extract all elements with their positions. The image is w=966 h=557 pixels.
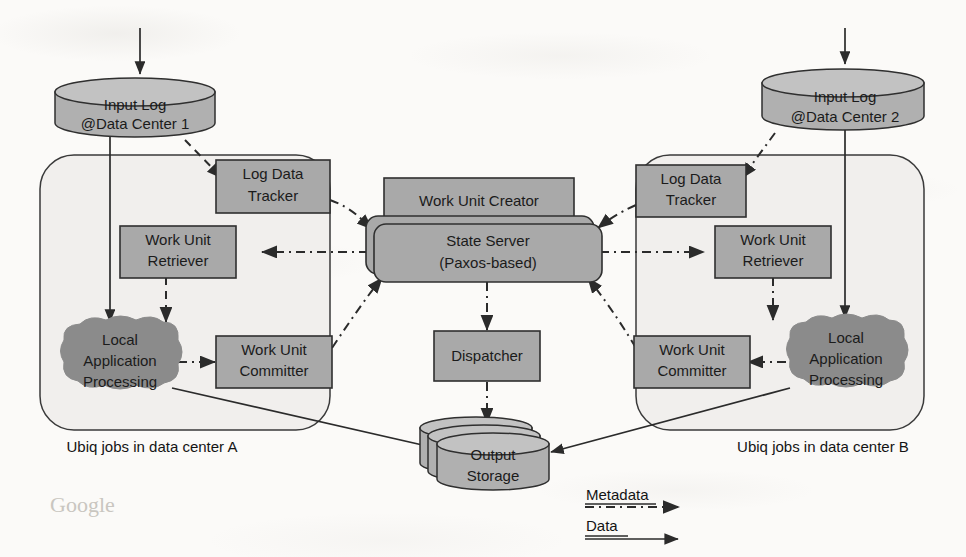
- state-server-label-line2: (Paxos-based): [439, 254, 537, 271]
- legend-metadata-label: Metadata: [586, 486, 649, 503]
- output-storage-label-line1: Output: [470, 446, 516, 463]
- node-work-unit-retriever-b[interactable]: Work Unit Retriever: [715, 226, 831, 278]
- figure-canvas: Input Log @Data Center 1 Input Log @Data…: [0, 0, 966, 557]
- node-work-unit-retriever-a[interactable]: Work Unit Retriever: [120, 226, 236, 278]
- work-unit-retriever-a-label-line2: Retriever: [148, 252, 209, 269]
- work-unit-retriever-b-label-line1: Work Unit: [740, 231, 806, 248]
- work-unit-retriever-b-label-line2: Retriever: [743, 252, 804, 269]
- work-unit-committer-b-label-line1: Work Unit: [659, 341, 725, 358]
- output-storage-label-line2: Storage: [467, 467, 520, 484]
- legend: Metadata Data: [585, 486, 679, 539]
- state-server-label-line1: State Server: [446, 232, 529, 249]
- input-log-1-label-line2: @Data Center 1: [81, 115, 190, 132]
- dispatcher-label: Dispatcher: [451, 347, 523, 364]
- legend-item-data: Data: [585, 517, 678, 539]
- node-input-log-2[interactable]: Input Log @Data Center 2: [762, 69, 924, 130]
- work-unit-committer-b-label-line2: Committer: [657, 362, 726, 379]
- node-log-data-tracker-b[interactable]: Log Data Tracker: [636, 165, 746, 217]
- node-log-data-tracker-a[interactable]: Log Data Tracker: [216, 160, 330, 213]
- node-local-app-processing-b[interactable]: Local Application Processing: [787, 314, 909, 388]
- architecture-diagram: Input Log @Data Center 1 Input Log @Data…: [0, 0, 966, 557]
- local-app-processing-b-label-line3: Processing: [809, 371, 883, 388]
- local-app-processing-b-label-line1: Local: [828, 329, 864, 346]
- input-log-2-label-line1: Input Log: [814, 88, 877, 105]
- google-watermark: Google: [50, 492, 115, 517]
- zone-a-label: Ubiq jobs in data center A: [67, 438, 238, 455]
- node-work-unit-committer-b[interactable]: Work Unit Committer: [634, 336, 750, 388]
- log-data-tracker-a-label-line2: Tracker: [248, 187, 298, 204]
- local-app-processing-a-label-line3: Processing: [83, 373, 157, 390]
- work-unit-retriever-a-label-line1: Work Unit: [145, 231, 211, 248]
- log-data-tracker-b-label-line2: Tracker: [666, 191, 716, 208]
- node-dispatcher[interactable]: Dispatcher: [434, 331, 540, 381]
- edge-work-unit-committer-b-to-state-server: [588, 278, 636, 348]
- work-unit-committer-a-label-line2: Committer: [239, 362, 308, 379]
- input-log-1-label-line1: Input Log: [104, 96, 167, 113]
- work-unit-creator-label: Work Unit Creator: [419, 192, 539, 209]
- edge-log-data-tracker-b-to-state-server: [598, 205, 636, 228]
- work-unit-committer-a-label-line1: Work Unit: [241, 341, 307, 358]
- zone-b-label: Ubiq jobs in data center B: [737, 438, 909, 455]
- node-local-app-processing-a[interactable]: Local Application Processing: [61, 316, 183, 390]
- node-work-unit-committer-a[interactable]: Work Unit Committer: [216, 336, 332, 388]
- legend-data-label: Data: [586, 517, 618, 534]
- local-app-processing-a-label-line2: Application: [83, 352, 156, 369]
- edge-work-unit-committer-a-to-state-server: [332, 278, 382, 348]
- node-output-storage[interactable]: Output Storage: [420, 417, 549, 490]
- local-app-processing-b-label-line2: Application: [809, 350, 882, 367]
- node-state-server[interactable]: State Server (Paxos-based): [366, 216, 602, 282]
- legend-item-metadata: Metadata: [585, 486, 679, 507]
- log-data-tracker-a-label-line1: Log Data: [243, 165, 305, 182]
- input-log-2-label-line2: @Data Center 2: [791, 108, 900, 125]
- local-app-processing-a-label-line1: Local: [102, 331, 138, 348]
- node-input-log-1[interactable]: Input Log @Data Center 1: [55, 78, 215, 137]
- log-data-tracker-b-label-line1: Log Data: [661, 170, 723, 187]
